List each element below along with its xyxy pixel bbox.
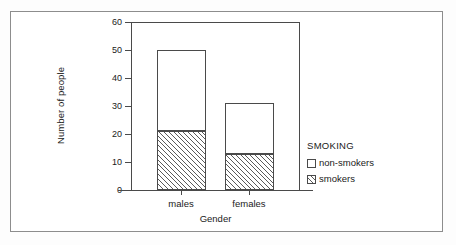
bar-segment-females-smokers[interactable] [225,154,274,190]
y-tick-label-30: 30 [104,102,122,111]
bar-segment-females-non-smokers[interactable] [225,103,274,153]
bar-females[interactable] [225,103,274,190]
bar-segment-males-non-smokers[interactable] [157,50,206,131]
x-tick-mark-males [181,190,182,195]
legend-swatch-non-smokers [307,159,316,168]
page-background: Number of people 60 50 40 30 20 10 0 [0,0,456,245]
y-axis-title: Number of people [55,41,66,171]
legend-label-smokers: smokers [319,174,355,184]
legend: SMOKING non-smokers smokers [307,140,437,190]
x-tick-mark-females [249,190,250,195]
y-tick-label-50: 50 [104,46,122,55]
y-tick-label-10: 10 [104,158,122,167]
x-tick-label-males: males [146,198,216,209]
y-tick-label-60: 60 [104,18,122,27]
y-tick-label-20: 20 [104,130,122,139]
bar-segment-males-smokers[interactable] [157,131,206,190]
stacked-bar-chart: Number of people 60 50 40 30 20 10 0 [0,0,456,245]
x-tick-label-females: females [214,198,284,209]
x-axis-title: Gender [131,213,300,224]
legend-label-non-smokers: non-smokers [319,158,374,168]
legend-item-smokers[interactable]: smokers [307,174,437,184]
legend-title: SMOKING [307,140,437,151]
legend-item-non-smokers[interactable]: non-smokers [307,158,437,168]
bar-males[interactable] [157,50,206,190]
legend-swatch-smokers [307,175,316,184]
x-axis-line [118,190,313,191]
y-tick-label-40: 40 [104,74,122,83]
